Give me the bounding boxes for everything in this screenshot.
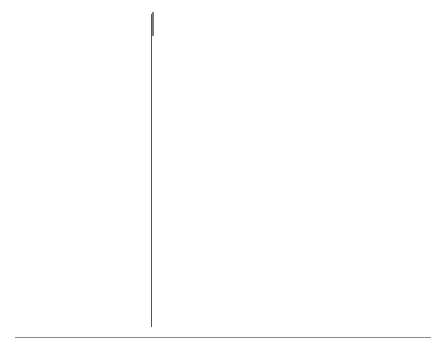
bar-row bbox=[0, 12, 441, 36]
plot-area bbox=[0, 12, 441, 330]
category-axis-line bbox=[151, 14, 152, 327]
horizontal-bar-chart bbox=[0, 0, 441, 346]
bottom-rule bbox=[15, 337, 431, 338]
bar-shape bbox=[152, 12, 154, 36]
